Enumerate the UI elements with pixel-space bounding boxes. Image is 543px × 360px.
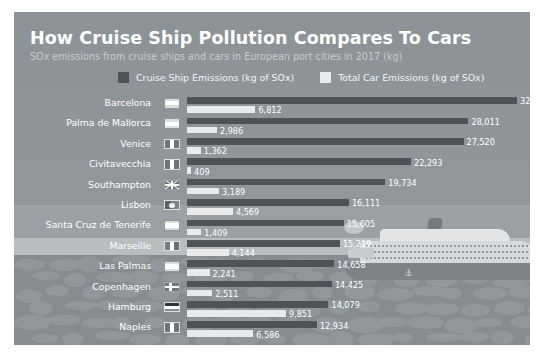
category-label: Santa Cruz de Tenerife bbox=[46, 219, 151, 230]
bar-car-emissions bbox=[187, 147, 201, 154]
bar-car-emissions bbox=[187, 249, 229, 256]
bar-cruise-emissions bbox=[187, 260, 334, 267]
chart-row: Southampton19,7343,189 bbox=[14, 178, 530, 198]
legend-label-car: Total Car Emissions (kg of SOx) bbox=[338, 72, 484, 83]
bar-car-emissions bbox=[187, 290, 212, 297]
bar-group: 15,6051,409 bbox=[187, 218, 526, 238]
bar-group: 28,0112,986 bbox=[187, 116, 526, 136]
legend-label-cruise: Cruise Ship Emissions (kg of SOx) bbox=[136, 72, 294, 83]
bar-cruise-emissions bbox=[187, 240, 340, 247]
category-label: Civitavecchia bbox=[89, 158, 151, 169]
chart-row: Hamburg14,0799,851 bbox=[14, 300, 530, 320]
legend-swatch-car-icon bbox=[320, 72, 331, 83]
chart-legend: Cruise Ship Emissions (kg of SOx) Total … bbox=[118, 72, 484, 83]
flag-icon-spain bbox=[164, 118, 180, 129]
category-label: Palma de Mallorca bbox=[66, 117, 151, 128]
bar-value-label: 14,079 bbox=[331, 301, 359, 309]
bar-value-label: 15,219 bbox=[343, 240, 371, 248]
category-label: Marseille bbox=[109, 240, 151, 251]
bar-cruise-emissions bbox=[187, 281, 332, 288]
bar-car-emissions bbox=[187, 310, 286, 317]
bar-value-label: 16,111 bbox=[352, 199, 380, 207]
chart-row: Marseille15,2194,144 bbox=[14, 239, 530, 259]
bar-car-emissions bbox=[187, 188, 219, 195]
bar-car-emissions bbox=[187, 269, 210, 276]
chart-row: Lisbon16,1114,569 bbox=[14, 198, 530, 218]
category-label: Venice bbox=[120, 138, 151, 149]
bar-value-label: 32,838 bbox=[520, 97, 530, 105]
bar-cruise-emissions bbox=[187, 97, 517, 104]
category-label: Lisbon bbox=[121, 199, 151, 210]
chart-row: Barcelona32,8386,812 bbox=[14, 96, 530, 116]
flag-icon-italy bbox=[164, 322, 180, 333]
chart-row: Palma de Mallorca28,0112,986 bbox=[14, 116, 530, 136]
bar-value-label: 12,934 bbox=[320, 322, 348, 330]
bar-value-label: 2,241 bbox=[213, 270, 236, 278]
bar-cruise-emissions bbox=[187, 301, 328, 308]
bar-cruise-emissions bbox=[187, 220, 344, 227]
bar-value-label: 2,511 bbox=[215, 290, 238, 298]
legend-item-cruise: Cruise Ship Emissions (kg of SOx) bbox=[118, 72, 294, 83]
category-label: Hamburg bbox=[108, 301, 151, 312]
infographic-card: ⚓ How Cruise Ship Pollution Compares To … bbox=[14, 12, 530, 345]
chart-row: Naples12,9346,586 bbox=[14, 320, 530, 340]
flag-icon-united-kingdom bbox=[164, 180, 180, 191]
bar-value-label: 28,011 bbox=[471, 118, 499, 126]
category-label: Barcelona bbox=[105, 97, 151, 108]
category-label: Las Palmas bbox=[99, 260, 151, 271]
bar-cruise-emissions bbox=[187, 321, 317, 328]
bar-value-label: 14,425 bbox=[335, 281, 363, 289]
bar-group: 19,7343,189 bbox=[187, 178, 526, 198]
bar-car-emissions bbox=[187, 127, 217, 134]
flag-icon-france bbox=[164, 241, 180, 252]
bar-value-label: 1,409 bbox=[204, 229, 227, 237]
bar-value-label: 1,362 bbox=[204, 147, 227, 155]
bar-value-label: 6,812 bbox=[258, 106, 281, 114]
bar-value-label: 4,569 bbox=[236, 208, 259, 216]
bar-cruise-emissions bbox=[187, 199, 349, 206]
bar-value-label: 3,189 bbox=[222, 188, 245, 196]
flag-icon-italy bbox=[164, 139, 180, 150]
bar-car-emissions bbox=[187, 229, 201, 236]
bar-cruise-emissions bbox=[187, 179, 385, 186]
bar-group: 22,293409 bbox=[187, 157, 526, 177]
bar-car-emissions bbox=[187, 167, 191, 174]
bar-value-label: 19,734 bbox=[388, 179, 416, 187]
bar-group: 15,2194,144 bbox=[187, 239, 526, 259]
legend-swatch-cruise-icon bbox=[118, 72, 129, 83]
bar-car-emissions bbox=[187, 330, 253, 337]
flag-icon-portugal bbox=[164, 200, 180, 211]
page-subtitle: SOx emissions from cruise ships and cars… bbox=[30, 51, 402, 62]
flag-icon-italy bbox=[164, 159, 180, 170]
bar-group: 16,1114,569 bbox=[187, 198, 526, 218]
bar-cruise-emissions bbox=[187, 118, 468, 125]
bar-value-label: 14,658 bbox=[337, 261, 365, 269]
bar-cruise-emissions bbox=[187, 138, 464, 145]
flag-icon-germany bbox=[164, 302, 180, 313]
flag-icon-denmark bbox=[164, 282, 180, 293]
chart-content: How Cruise Ship Pollution Compares To Ca… bbox=[14, 12, 530, 345]
bar-value-label: 409 bbox=[194, 168, 209, 176]
category-label: Southampton bbox=[88, 179, 151, 190]
bar-value-label: 6,586 bbox=[256, 331, 279, 339]
bar-value-label: 15,605 bbox=[347, 220, 375, 228]
bar-group: 14,4252,511 bbox=[187, 280, 526, 300]
bar-group: 12,9346,586 bbox=[187, 320, 526, 340]
bar-cruise-emissions bbox=[187, 158, 411, 165]
bar-chart-plot: Barcelona32,8386,812Palma de Mallorca28,… bbox=[14, 96, 530, 341]
bar-group: 32,8386,812 bbox=[187, 96, 526, 116]
chart-row: Las Palmas14,6582,241 bbox=[14, 259, 530, 279]
legend-item-car: Total Car Emissions (kg of SOx) bbox=[320, 72, 484, 83]
chart-row: Santa Cruz de Tenerife15,6051,409 bbox=[14, 218, 530, 238]
bar-car-emissions bbox=[187, 208, 233, 215]
category-label: Naples bbox=[119, 321, 151, 332]
bar-value-label: 9,851 bbox=[289, 310, 312, 318]
page-title: How Cruise Ship Pollution Compares To Ca… bbox=[30, 28, 471, 48]
bar-group: 14,0799,851 bbox=[187, 300, 526, 320]
bar-car-emissions bbox=[187, 106, 255, 113]
bar-group: 14,6582,241 bbox=[187, 259, 526, 279]
category-label: Copenhagen bbox=[92, 281, 151, 292]
bar-value-label: 4,144 bbox=[232, 249, 255, 257]
bar-value-label: 2,986 bbox=[220, 127, 243, 135]
chart-row: Venice27,5201,362 bbox=[14, 137, 530, 157]
